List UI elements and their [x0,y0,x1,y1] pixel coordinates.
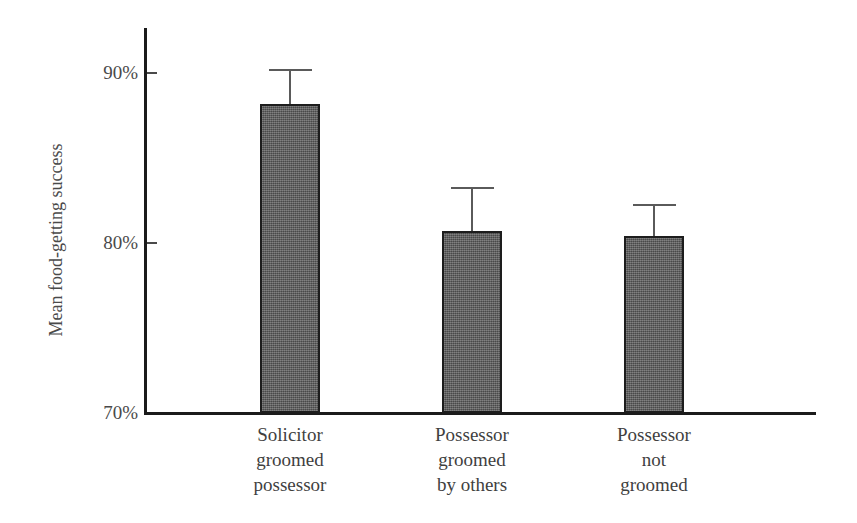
y-tick-label-70: 70% [103,403,138,422]
x-label-2-line-2: groomed [377,447,567,472]
x-label-2-line-1: Possessor [377,422,567,447]
x-label-3-line-1: Possessor [559,422,749,447]
y-axis-line [144,28,147,415]
x-label-group-2: Possessor groomed by others [377,422,567,497]
y-tick-label-90-wrap: 90% [58,63,138,82]
error-bar-stem-2 [471,187,473,233]
bar-chart: Mean food-getting success 90% 80% 70% So… [0,0,857,523]
bar-possessor-not-groomed[interactable] [624,236,684,413]
y-tick-label-70-wrap: 70% [58,403,138,422]
y-tick-90 [147,72,157,74]
x-label-3-line-2: not [559,447,749,472]
x-label-2-line-3: by others [377,472,567,497]
y-tick-label-90: 90% [103,63,138,82]
y-tick-label-80: 80% [103,233,138,252]
x-label-1-line-2: groomed [195,447,385,472]
x-label-group-3: Possessor not groomed [559,422,749,497]
y-tick-label-80-wrap: 80% [58,233,138,252]
x-label-3-line-3: groomed [559,472,749,497]
x-label-1-line-3: possessor [195,472,385,497]
x-label-1-line-1: Solicitor [195,422,385,447]
error-bar-stem-1 [289,69,291,107]
x-label-group-1: Solicitor groomed possessor [195,422,385,497]
y-tick-80 [147,242,157,244]
bar-solicitor-groomed-possessor[interactable] [260,104,320,413]
error-bar-stem-3 [653,204,655,238]
bar-possessor-groomed-by-others[interactable] [442,231,502,413]
